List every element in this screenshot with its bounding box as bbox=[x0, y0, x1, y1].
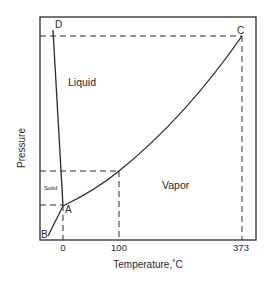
point-label-b: B bbox=[41, 229, 48, 240]
phase-diagram: D C A B Liquid Vapor Solid 0 100 373 Tem… bbox=[0, 0, 270, 284]
point-label-a: A bbox=[65, 204, 72, 215]
plot-frame bbox=[40, 17, 256, 240]
y-axis-label: Pressure bbox=[16, 128, 27, 168]
x-tick-100: 100 bbox=[111, 242, 127, 253]
vaporization-curve-AC bbox=[63, 36, 242, 206]
sublimation-curve-AB bbox=[48, 206, 63, 236]
x-axis-label: Temperature,˚C bbox=[113, 259, 182, 270]
region-label-vapor: Vapor bbox=[162, 179, 190, 191]
point-label-c: C bbox=[237, 25, 244, 36]
phase-boundaries bbox=[48, 30, 242, 236]
x-tick-373: 373 bbox=[233, 242, 249, 253]
region-label-liquid: Liquid bbox=[68, 76, 96, 88]
melting-curve-AD bbox=[53, 30, 63, 206]
region-label-solid: Solid bbox=[44, 185, 57, 191]
x-tick-0: 0 bbox=[60, 242, 65, 253]
point-label-d: D bbox=[55, 19, 62, 30]
